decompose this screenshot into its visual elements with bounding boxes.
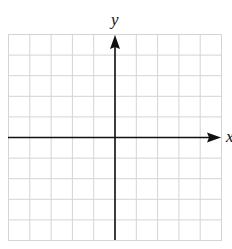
y-axis-label: y xyxy=(109,10,119,29)
x-axis-arrowhead-icon xyxy=(207,133,221,143)
coordinate-plane: y x xyxy=(0,0,232,249)
y-axis-arrowhead-icon xyxy=(110,35,120,49)
x-axis-label: x xyxy=(225,127,232,146)
